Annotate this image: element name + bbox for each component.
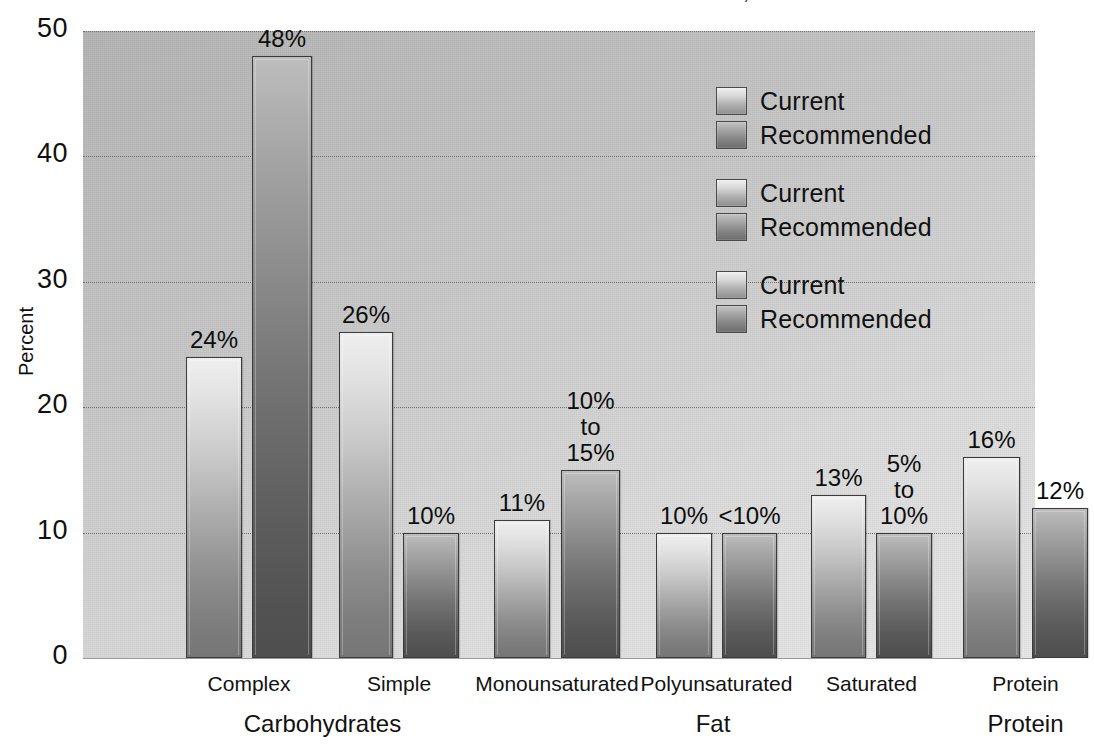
- y-axis-tick-20: 20: [6, 389, 68, 420]
- y-axis-tick-0: 0: [6, 640, 68, 671]
- bar: [876, 533, 932, 658]
- bar-value-label: <10%: [700, 503, 799, 529]
- bar-highlight-edge: [189, 360, 239, 655]
- bar-highlight-edge: [406, 536, 456, 655]
- bar-highlight-edge: [879, 536, 929, 655]
- legend-swatch-icon: [716, 87, 747, 115]
- legend-swatch-icon: [716, 179, 747, 207]
- bar-value-label: 10% to 15%: [539, 388, 642, 466]
- clipped-title-fragment: ): [744, 0, 762, 2]
- bar: [186, 357, 242, 658]
- legend-item-recommended-1: Recommended: [716, 118, 932, 152]
- legend-swatch-icon: [716, 213, 747, 241]
- legend-item-recommended-3: Recommended: [716, 210, 932, 244]
- bar-value-label: 11%: [472, 490, 572, 516]
- y-axis-tick-10: 10: [6, 515, 68, 546]
- legend-item-label: Recommended: [760, 213, 932, 242]
- bar-value-label: 24%: [164, 327, 264, 353]
- bar: [252, 56, 312, 658]
- bar: [722, 533, 777, 658]
- legend-item-label: Recommended: [760, 121, 932, 150]
- y-axis-tick-30: 30: [6, 264, 68, 295]
- legend-item-recommended-5: Recommended: [716, 302, 932, 336]
- legend-item-label: Recommended: [760, 305, 932, 334]
- bar-highlight-edge: [255, 59, 309, 655]
- bar: [494, 520, 550, 658]
- x-axis-group-carbohydrates: Carbohydrates: [193, 710, 453, 738]
- bar: [656, 533, 712, 658]
- bar-highlight-edge: [1035, 511, 1085, 655]
- bar-value-label: 26%: [317, 302, 415, 328]
- legend-swatch-icon: [716, 305, 747, 333]
- bar-highlight-edge: [725, 536, 774, 655]
- legend-item-current-4: Current: [716, 268, 932, 302]
- bar-highlight-edge: [659, 536, 709, 655]
- y-axis-tick-50: 50: [6, 13, 68, 44]
- x-axis-line: [83, 658, 1035, 659]
- bar-value-label: 12%: [1010, 478, 1094, 504]
- gridline-50: [83, 31, 1035, 32]
- x-axis-group-protein: Protein: [896, 710, 1094, 738]
- bar-value-label: 5% to 10%: [854, 451, 954, 529]
- x-axis-tick-protein: Protein: [916, 672, 1094, 696]
- bar-highlight-edge: [497, 523, 547, 655]
- legend-item-label: Current: [760, 87, 845, 116]
- legend-item-label: Current: [760, 271, 845, 300]
- legend-item-current-2: Current: [716, 176, 932, 210]
- legend-item-label: Current: [760, 179, 845, 208]
- bar-highlight-edge: [342, 335, 390, 655]
- bar: [403, 533, 459, 658]
- chart-legend: CurrentRecommendedCurrentRecommendedCurr…: [716, 84, 932, 336]
- bar: [339, 332, 393, 658]
- legend-item-current-0: Current: [716, 84, 932, 118]
- y-axis-tick-40: 40: [6, 138, 68, 169]
- bar-value-label: 48%: [230, 26, 334, 52]
- bar: [1032, 508, 1088, 658]
- legend-swatch-icon: [716, 271, 747, 299]
- x-axis-group-fat: Fat: [583, 710, 843, 738]
- legend-swatch-icon: [716, 121, 747, 149]
- bar-value-label: 10%: [381, 503, 481, 529]
- bar-value-label: 16%: [941, 427, 1042, 453]
